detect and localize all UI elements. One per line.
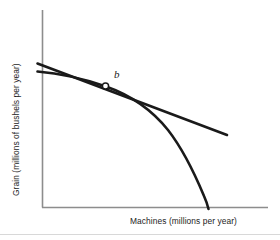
ppf-plot	[0, 0, 280, 240]
production-possibilities-curve	[38, 72, 209, 210]
tangency-point-marker	[102, 83, 108, 89]
y-axis-label: Grain (millions of bushels per year)	[11, 63, 21, 196]
x-axis-label: Machines (millions per year)	[130, 216, 237, 226]
tangent-line	[38, 64, 228, 136]
tangency-point-label: b	[114, 68, 120, 80]
ppf-figure: Grain (millions of bushels per year) Mac…	[0, 0, 280, 240]
